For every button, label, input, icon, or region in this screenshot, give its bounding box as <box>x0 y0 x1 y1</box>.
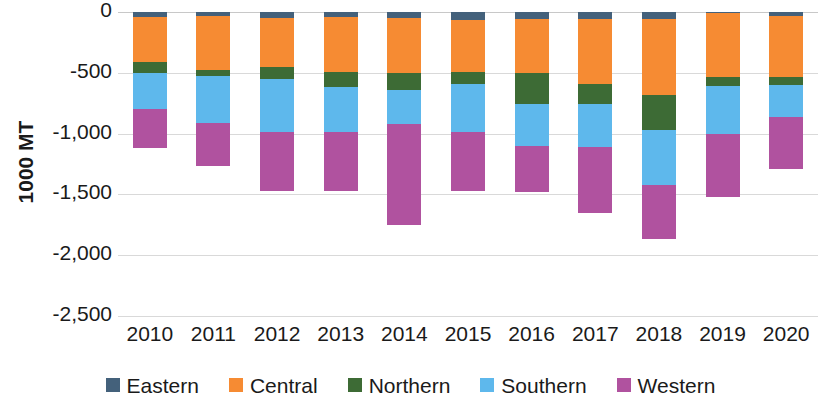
x-tick-label: 2020 <box>754 322 818 346</box>
bars-layer <box>118 12 818 316</box>
legend-label: Central <box>250 375 318 396</box>
legend-item-western[interactable]: Western <box>617 375 716 396</box>
bar-segment-western[interactable] <box>196 123 230 167</box>
legend-label: Western <box>638 375 716 396</box>
bar-segment-western[interactable] <box>133 109 167 148</box>
bar-segment-western[interactable] <box>387 124 421 226</box>
x-axis-tick-labels: 2010201120122013201420152016201720182019… <box>118 322 818 352</box>
legend-swatch-icon <box>480 378 494 392</box>
legend-label: Southern <box>501 375 586 396</box>
bar-group[interactable] <box>260 12 294 316</box>
bar-segment-central[interactable] <box>578 19 612 85</box>
bar-segment-southern[interactable] <box>387 90 421 123</box>
x-tick-label: 2012 <box>245 322 309 346</box>
legend-item-northern[interactable]: Northern <box>348 375 451 396</box>
bar-segment-northern[interactable] <box>324 72 358 88</box>
bar-segment-central[interactable] <box>769 16 803 77</box>
x-tick-label: 2010 <box>118 322 182 346</box>
bar-segment-western[interactable] <box>515 146 549 192</box>
bar-segment-western[interactable] <box>324 132 358 192</box>
bar-segment-southern[interactable] <box>451 84 485 132</box>
bar-group[interactable] <box>642 12 676 316</box>
bar-segment-eastern[interactable] <box>451 12 485 20</box>
bar-segment-central[interactable] <box>260 18 294 67</box>
bar-group[interactable] <box>133 12 167 316</box>
y-axis-tick-labels: 0-500-1,000-1,500-2,000-2,500 <box>0 0 112 404</box>
bar-segment-central[interactable] <box>196 16 230 70</box>
x-tick-label: 2015 <box>436 322 500 346</box>
x-tick-label: 2019 <box>691 322 755 346</box>
bar-segment-central[interactable] <box>387 18 421 73</box>
plot-area <box>118 12 818 316</box>
bar-group[interactable] <box>387 12 421 316</box>
bar-segment-western[interactable] <box>260 132 294 191</box>
legend-item-southern[interactable]: Southern <box>480 375 586 396</box>
bar-segment-eastern[interactable] <box>515 12 549 19</box>
bar-group[interactable] <box>196 12 230 316</box>
x-tick-label: 2011 <box>182 322 246 346</box>
legend-label: Northern <box>369 375 451 396</box>
bar-group[interactable] <box>324 12 358 316</box>
legend-item-central[interactable]: Central <box>229 375 318 396</box>
x-tick-label: 2016 <box>500 322 564 346</box>
bar-segment-central[interactable] <box>451 20 485 72</box>
bar-segment-central[interactable] <box>515 19 549 74</box>
bar-segment-northern[interactable] <box>769 77 803 85</box>
bar-segment-southern[interactable] <box>133 73 167 109</box>
bar-group[interactable] <box>515 12 549 316</box>
legend-swatch-icon <box>229 378 243 392</box>
bar-segment-southern[interactable] <box>515 104 549 147</box>
legend-label: Eastern <box>127 375 199 396</box>
bar-segment-northern[interactable] <box>133 62 167 73</box>
bar-segment-southern[interactable] <box>260 79 294 131</box>
bar-segment-southern[interactable] <box>642 130 676 185</box>
bar-group[interactable] <box>578 12 612 316</box>
bar-group[interactable] <box>451 12 485 316</box>
bar-segment-southern[interactable] <box>578 104 612 147</box>
bar-segment-southern[interactable] <box>324 87 358 131</box>
bar-segment-central[interactable] <box>133 17 167 62</box>
bar-segment-western[interactable] <box>706 134 740 197</box>
bar-group[interactable] <box>706 12 740 316</box>
x-tick-label: 2013 <box>309 322 373 346</box>
bar-group[interactable] <box>769 12 803 316</box>
bar-segment-western[interactable] <box>769 117 803 170</box>
bar-segment-southern[interactable] <box>196 76 230 123</box>
legend-swatch-icon <box>617 378 631 392</box>
x-tick-label: 2014 <box>373 322 437 346</box>
bar-segment-central[interactable] <box>642 19 676 94</box>
bar-segment-northern[interactable] <box>578 84 612 104</box>
bar-segment-eastern[interactable] <box>578 12 612 19</box>
x-tick-label: 2017 <box>563 322 627 346</box>
chart-legend: EasternCentralNorthernSouthernWestern <box>0 369 821 401</box>
bar-segment-northern[interactable] <box>260 67 294 79</box>
y-tick-label: -2,000 <box>4 241 112 265</box>
y-tick-label: -1,500 <box>4 180 112 204</box>
bar-segment-western[interactable] <box>642 185 676 240</box>
bar-segment-western[interactable] <box>451 132 485 191</box>
bar-segment-northern[interactable] <box>642 95 676 130</box>
bar-segment-northern[interactable] <box>451 72 485 84</box>
bar-segment-central[interactable] <box>706 13 740 77</box>
gridline <box>118 316 818 317</box>
legend-item-eastern[interactable]: Eastern <box>106 375 199 396</box>
bar-segment-northern[interactable] <box>515 73 549 103</box>
x-tick-label: 2018 <box>627 322 691 346</box>
legend-swatch-icon <box>348 378 362 392</box>
legend-swatch-icon <box>106 378 120 392</box>
bar-segment-central[interactable] <box>324 17 358 72</box>
bar-segment-southern[interactable] <box>769 85 803 117</box>
bar-segment-northern[interactable] <box>706 77 740 86</box>
y-tick-label: -2,500 <box>4 302 112 326</box>
stacked-bar-chart: 1000 MT 0-500-1,000-1,500-2,000-2,500 20… <box>0 0 821 404</box>
bar-segment-southern[interactable] <box>706 86 740 134</box>
y-tick-label: -500 <box>4 59 112 83</box>
bar-segment-eastern[interactable] <box>642 12 676 19</box>
y-tick-label: -1,000 <box>4 120 112 144</box>
bar-segment-western[interactable] <box>578 147 612 213</box>
bar-segment-northern[interactable] <box>387 73 421 90</box>
y-tick-label: 0 <box>4 0 112 22</box>
